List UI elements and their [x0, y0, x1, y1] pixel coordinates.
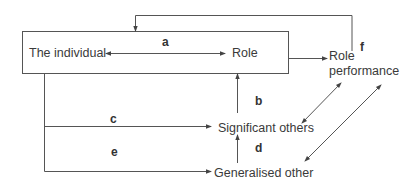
arrow-f-generalised [305, 85, 381, 161]
edge-label-a: a [162, 35, 169, 49]
edge-label-f: f [360, 40, 364, 54]
node-generalised-other: Generalised other [214, 166, 313, 180]
node-significant-others: Significant others [218, 121, 314, 135]
diagram-canvas [0, 0, 413, 193]
node-the-individual: The individual [29, 46, 106, 60]
node-role: Role [232, 46, 258, 60]
edge-label-b: b [255, 94, 262, 108]
arrow-f-significant [302, 83, 341, 123]
node-role-performance-line1: Role [329, 49, 355, 63]
node-role-performance-line2: performance [329, 64, 399, 78]
edge-label-e: e [111, 145, 118, 159]
edge-label-d: d [255, 141, 262, 155]
edge-label-c: c [110, 112, 117, 126]
